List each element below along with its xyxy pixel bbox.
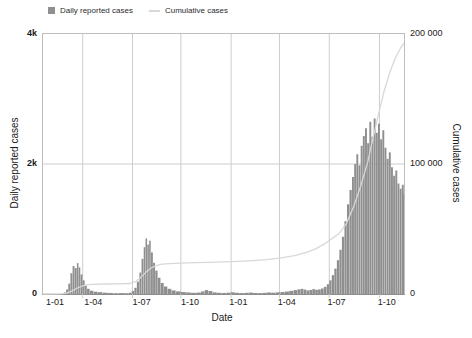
daily-cases-bar: [359, 165, 361, 294]
daily-cases-bar: [367, 143, 369, 294]
daily-cases-bar: [363, 136, 365, 294]
daily-cases-bar: [201, 291, 204, 294]
daily-cases-bar: [374, 119, 376, 295]
chart-figure: Daily reported cases Cumulative cases Da…: [0, 0, 472, 338]
x-tick: 1-04: [278, 297, 296, 307]
daily-cases-bar: [382, 130, 384, 294]
daily-cases-bar: [98, 292, 102, 294]
daily-cases-bar: [372, 137, 374, 294]
daily-cases-bar: [344, 221, 346, 294]
daily-cases-bar: [90, 291, 93, 294]
y-tick-right: 0: [410, 288, 415, 298]
cumulative-line-icon: [149, 10, 160, 12]
daily-cases-bar: [318, 289, 321, 294]
daily-cases-bar: [339, 250, 341, 294]
daily-cases-bar: [281, 292, 285, 294]
daily-cases-bar: [119, 293, 124, 294]
x-tick: 1-10: [181, 297, 199, 307]
daily-cases-swatch-icon: [48, 7, 55, 14]
daily-cases-bar: [307, 290, 310, 294]
daily-cases-bar: [144, 247, 146, 294]
daily-cases-bar: [113, 293, 118, 294]
daily-cases-bar: [342, 237, 344, 294]
daily-cases-bar: [176, 291, 181, 294]
legend: Daily reported cases Cumulative cases: [48, 6, 228, 15]
daily-cases-bar: [309, 290, 312, 294]
daily-cases-bar: [400, 189, 402, 294]
legend-cumulative-label: Cumulative cases: [165, 6, 228, 15]
daily-cases-bar: [315, 290, 318, 294]
daily-cases-bar: [146, 238, 148, 294]
daily-cases-bar: [327, 284, 329, 294]
daily-cases-bar: [301, 289, 304, 294]
daily-cases-bar: [321, 288, 324, 294]
daily-cases-bar: [244, 293, 248, 294]
daily-cases-bar: [134, 288, 136, 294]
daily-cases-bar: [205, 290, 208, 294]
daily-cases-bar: [132, 291, 134, 294]
x-tick: 1-10: [378, 297, 396, 307]
legend-daily-label: Daily reported cases: [60, 6, 133, 15]
daily-cases-bar: [324, 287, 327, 294]
daily-cases-bar: [337, 260, 339, 294]
daily-cases-bar: [161, 283, 164, 294]
daily-cases-bar: [103, 293, 108, 294]
daily-cases-bar: [217, 293, 221, 294]
daily-cases-bar: [385, 148, 387, 294]
daily-cases-bar: [139, 273, 141, 294]
daily-cases-bar: [271, 293, 275, 294]
daily-cases-bar: [395, 171, 397, 295]
daily-cases-bar: [294, 290, 298, 294]
x-axis-title: Date: [211, 312, 232, 323]
daily-cases-bar: [213, 292, 217, 294]
daily-cases-bar: [389, 152, 391, 294]
daily-cases-bar: [226, 293, 230, 294]
daily-cases-bar: [208, 291, 212, 294]
y-tick-left: 0: [0, 288, 37, 298]
x-tick: 1-01: [229, 297, 247, 307]
daily-cases-bar: [249, 293, 253, 294]
daily-cases-bar: [83, 280, 85, 294]
daily-cases-bar: [149, 241, 151, 294]
y-tick-right: 100 000: [410, 158, 443, 168]
x-tick: 1-04: [84, 297, 102, 307]
daily-cases-bar: [334, 269, 336, 294]
daily-cases-bar: [298, 289, 301, 294]
daily-cases-bar: [186, 292, 191, 294]
daily-cases-bar: [391, 167, 393, 294]
daily-cases-bar: [378, 124, 380, 294]
daily-cases-bar: [262, 293, 266, 294]
daily-cases-bar: [376, 133, 378, 294]
daily-cases-bar: [349, 190, 351, 294]
daily-cases-bar: [387, 159, 389, 294]
daily-cases-bar: [289, 291, 293, 294]
daily-cases-bar: [276, 292, 280, 294]
daily-cases-bar: [172, 290, 176, 294]
y-tick-right: 200 000: [410, 28, 443, 38]
x-tick: 1-07: [328, 297, 346, 307]
legend-item-cumulative-cases: Cumulative cases: [149, 6, 228, 15]
daily-cases-bar: [361, 146, 363, 294]
daily-cases-bar: [222, 293, 226, 294]
legend-item-daily-cases: Daily reported cases: [48, 6, 133, 15]
daily-cases-bar: [267, 292, 271, 294]
daily-cases-bar: [196, 293, 200, 294]
daily-cases-bar: [356, 154, 358, 294]
daily-cases-bar: [151, 252, 153, 294]
daily-cases-bar: [79, 267, 81, 294]
daily-cases-bar: [312, 289, 315, 294]
daily-cases-bar: [85, 286, 87, 294]
daily-cases-bar: [304, 290, 307, 294]
daily-cases-bar: [352, 177, 354, 294]
daily-cases-bar: [81, 275, 83, 295]
daily-cases-bar: [108, 293, 113, 294]
x-tick: 1-07: [133, 297, 151, 307]
y-axis-title-right: Cumulative cases: [451, 124, 462, 203]
daily-cases-bar: [164, 287, 167, 294]
daily-cases-bar: [168, 289, 172, 294]
daily-cases-bar: [380, 139, 382, 294]
daily-cases-bar: [124, 293, 128, 294]
daily-cases-bar: [87, 289, 90, 294]
daily-cases-bar: [253, 293, 257, 294]
y-tick-left: 4k: [0, 28, 37, 38]
